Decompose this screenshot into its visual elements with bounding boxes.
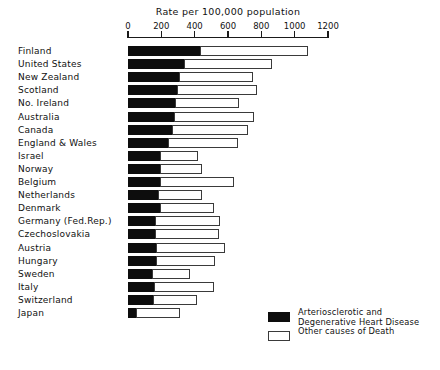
category-label: Sweden xyxy=(18,268,55,280)
bar-segment-other-causes xyxy=(158,190,202,200)
stacked-bar xyxy=(128,98,239,108)
category-label: Finland xyxy=(18,45,52,57)
bar-row: Australia xyxy=(0,111,440,124)
bar-segment-heart-disease xyxy=(128,125,172,135)
stacked-bar xyxy=(128,164,202,174)
x-tick-label: 800 xyxy=(253,21,269,31)
category-label: Israel xyxy=(18,150,44,162)
bar-segment-other-causes xyxy=(174,112,254,122)
bar-segment-heart-disease xyxy=(128,190,158,200)
stacked-bar xyxy=(128,308,180,318)
bar-segment-other-causes xyxy=(160,151,198,161)
stacked-bar xyxy=(128,229,219,239)
x-tick-label: 1200 xyxy=(317,21,339,31)
bar-segment-heart-disease xyxy=(128,164,160,174)
category-label: England & Wales xyxy=(18,137,97,149)
x-tick-label: 400 xyxy=(187,21,203,31)
category-label: Canada xyxy=(18,124,53,136)
bar-segment-heart-disease xyxy=(128,308,136,318)
bar-segment-other-causes xyxy=(160,177,234,187)
x-tick-mark xyxy=(227,31,228,38)
category-label: No. Ireland xyxy=(18,97,69,109)
bar-segment-heart-disease xyxy=(128,256,156,266)
bar-row: England & Wales xyxy=(0,137,440,150)
bar-row: Denmark xyxy=(0,202,440,215)
category-label: Czechoslovakia xyxy=(18,228,90,240)
bar-row: Hungary xyxy=(0,255,440,268)
bar-segment-other-causes xyxy=(136,308,180,318)
stacked-bar xyxy=(128,59,272,69)
stacked-bar xyxy=(128,112,254,122)
bar-row: Germany (Fed.Rep.) xyxy=(0,215,440,228)
bar-segment-other-causes xyxy=(155,229,219,239)
x-tick-mark xyxy=(261,31,262,38)
stacked-bar xyxy=(128,256,215,266)
category-label: Belgium xyxy=(18,176,56,188)
bar-row: United States xyxy=(0,58,440,71)
category-label: Denmark xyxy=(18,202,61,214)
category-label: Scotland xyxy=(18,84,59,96)
x-tick-mark xyxy=(127,31,128,38)
bar-row: Belgium xyxy=(0,176,440,189)
bar-segment-heart-disease xyxy=(128,203,160,213)
bar-row: Austria xyxy=(0,242,440,255)
stacked-bar xyxy=(128,295,197,305)
category-label: Australia xyxy=(18,111,60,123)
legend-swatch-white xyxy=(268,331,290,341)
stacked-bar xyxy=(128,203,214,213)
stacked-bar xyxy=(128,85,257,95)
legend-label: Other causes of Death xyxy=(298,327,394,337)
bar-segment-heart-disease xyxy=(128,72,179,82)
bar-segment-heart-disease xyxy=(128,216,155,226)
bar-row: Italy xyxy=(0,281,440,294)
bar-segment-other-causes xyxy=(156,243,225,253)
bar-row: Finland xyxy=(0,45,440,58)
bar-segment-heart-disease xyxy=(128,98,175,108)
stacked-bar xyxy=(128,151,198,161)
category-label: New Zealand xyxy=(18,71,79,83)
bar-segment-heart-disease xyxy=(128,177,160,187)
bar-segment-other-causes xyxy=(175,98,239,108)
bar-row: Netherlands xyxy=(0,189,440,202)
x-tick-label: 600 xyxy=(220,21,236,31)
bar-segment-other-causes xyxy=(168,138,238,148)
bar-segment-other-causes xyxy=(160,203,214,213)
bar-segment-heart-disease xyxy=(128,243,156,253)
stacked-bar xyxy=(128,282,214,292)
x-tick-label: 1000 xyxy=(284,21,306,31)
bar-segment-heart-disease xyxy=(128,151,160,161)
bar-segment-other-causes xyxy=(155,216,220,226)
bar-segment-heart-disease xyxy=(128,46,200,56)
bar-segment-heart-disease xyxy=(128,59,184,69)
bar-row: No. Ireland xyxy=(0,97,440,110)
category-label: Austria xyxy=(18,242,51,254)
bar-segment-other-causes xyxy=(177,85,257,95)
x-tick-mark xyxy=(294,31,295,38)
bar-segment-heart-disease xyxy=(128,138,168,148)
bar-row: Switzerland xyxy=(0,294,440,307)
category-label: United States xyxy=(18,58,82,70)
category-label: Japan xyxy=(18,307,44,319)
x-tick-label: 200 xyxy=(153,21,169,31)
bar-segment-other-causes xyxy=(156,256,214,266)
bar-segment-other-causes xyxy=(154,282,214,292)
bar-segment-heart-disease xyxy=(128,85,177,95)
category-label: Norway xyxy=(18,163,53,175)
category-label: Hungary xyxy=(18,255,58,267)
legend-item: Other causes of Death xyxy=(268,329,440,348)
plot-area: FinlandUnited StatesNew ZealandScotlandN… xyxy=(0,45,440,320)
stacked-bar xyxy=(128,243,225,253)
legend-label: Arteriosclerotic and Degenerative Heart … xyxy=(298,308,419,327)
bar-segment-other-causes xyxy=(153,295,197,305)
bar-segment-other-causes xyxy=(160,164,203,174)
legend-swatch-black xyxy=(268,312,290,322)
bar-segment-heart-disease xyxy=(128,112,174,122)
category-label: Netherlands xyxy=(18,189,75,201)
bar-segment-heart-disease xyxy=(128,229,155,239)
bar-row: Canada xyxy=(0,124,440,137)
x-tick-mark xyxy=(194,31,195,38)
bar-row: New Zealand xyxy=(0,71,440,84)
bar-row: Czechoslovakia xyxy=(0,228,440,241)
stacked-bar xyxy=(128,177,234,187)
bar-row: Scotland xyxy=(0,84,440,97)
